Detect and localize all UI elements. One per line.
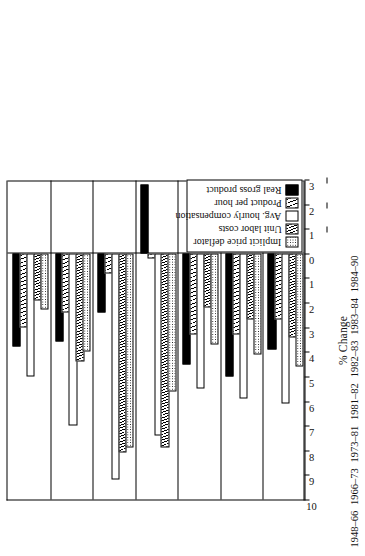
bar <box>295 253 303 366</box>
axis-tick-label: 10 <box>306 500 317 511</box>
axis-tick-label: 6 <box>308 402 313 413</box>
category-label: 1966–73 <box>348 468 359 505</box>
figure-page: 109876543210123 % Change 1948–661966–731… <box>0 0 365 556</box>
bar-group <box>7 180 50 499</box>
category-label: 1984–90 <box>348 255 359 292</box>
axis-tick-label: 9 <box>308 475 313 486</box>
category-label: 1948–66 <box>348 510 359 547</box>
group-separator <box>50 180 51 499</box>
axis-tick-label: 1 <box>308 229 313 240</box>
group-separator <box>177 180 178 499</box>
bar <box>40 253 48 310</box>
legend-item: Avg. hourly compensation <box>175 210 298 221</box>
legend-label: Product per hour <box>214 197 281 208</box>
legend-item: Product per hour <box>214 197 298 208</box>
bar <box>125 253 133 447</box>
legend-item: Implicit price deflator <box>193 236 298 247</box>
axis-tick-label: 4 <box>308 352 313 363</box>
category-label: 1982–83 <box>348 340 359 377</box>
chart-canvas: 109876543210123 % Change 1948–661966–731… <box>0 0 365 556</box>
legend-swatch <box>285 210 298 221</box>
bar <box>253 253 261 354</box>
legend-label: Implicit price deflator <box>193 236 281 247</box>
axis-tick-label: 8 <box>308 451 313 462</box>
legend-label: Real gross product <box>206 184 281 195</box>
negative-sign <box>326 202 327 208</box>
group-separator <box>135 180 136 499</box>
axis-tick-label: 3 <box>308 328 313 339</box>
bar <box>167 253 175 391</box>
category-label: 1981–82 <box>348 383 359 420</box>
bar-group <box>135 180 178 499</box>
axis-tick-label: 0 <box>308 254 313 265</box>
legend-swatch <box>285 223 298 234</box>
axis-tick <box>304 401 309 402</box>
axis-tick-label: 3 <box>308 180 313 191</box>
bar <box>210 253 218 344</box>
bar-group <box>92 180 135 499</box>
axis-tick-label: 2 <box>308 205 313 216</box>
axis-tick-label: 7 <box>308 426 313 437</box>
legend-item: Unit labor costs <box>218 223 298 234</box>
legend-swatch <box>285 184 298 195</box>
legend-item: Real gross product <box>206 184 298 195</box>
category-label: 1983–84 <box>348 297 359 334</box>
legend-label: Avg. hourly compensation <box>175 210 281 221</box>
group-separator <box>92 180 93 499</box>
category-label: 1973–81 <box>348 425 359 462</box>
legend-label: Unit labor costs <box>218 223 281 234</box>
legend-swatch <box>285 197 298 208</box>
bar <box>82 253 90 351</box>
axis-tick <box>304 204 309 205</box>
negative-sign <box>326 226 327 232</box>
axis-tick-label: 1 <box>308 278 313 289</box>
bar-group <box>50 180 93 499</box>
legend-swatch <box>285 236 298 247</box>
axis-tick-label: 5 <box>308 377 313 388</box>
axis-tick-label: 2 <box>308 303 313 314</box>
negative-sign <box>326 177 327 183</box>
axis-title: % Change <box>336 180 348 500</box>
chart-legend: Real gross productProduct per hourAvg. h… <box>186 179 302 252</box>
bar <box>140 184 148 253</box>
